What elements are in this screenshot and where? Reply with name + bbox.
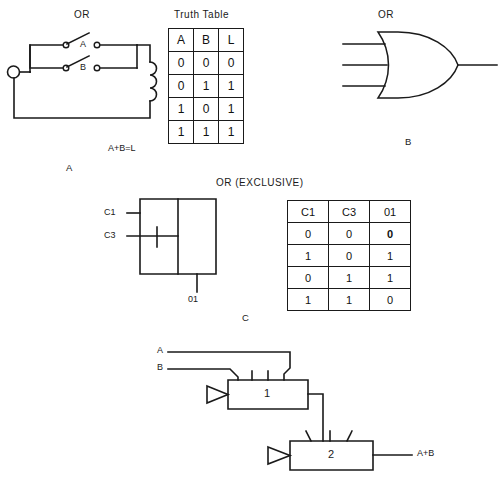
header-cell: C3 xyxy=(329,201,370,223)
panel-a-id: A xyxy=(66,163,72,173)
table-header-row: A B L xyxy=(169,29,244,52)
table-cell: 1 xyxy=(219,75,244,98)
xor-output-label: 01 xyxy=(188,295,198,304)
table-cell: 1 xyxy=(194,75,219,98)
gate-1-output-wire xyxy=(308,394,323,441)
header-cell: A xyxy=(169,29,194,52)
panel-d-input-a-label: A xyxy=(157,346,163,355)
table-header-row: C1 C3 01 xyxy=(288,201,411,223)
truth-table-or: A B L 0 0 0 0 1 1 1 0 1 1 1 1 xyxy=(168,28,244,144)
table-cell: 0 xyxy=(219,52,244,75)
gate-1-enable-triangle xyxy=(207,386,228,403)
table-cell: 1 xyxy=(370,267,411,289)
truth-table-xor: C1 C3 01 0 0 0 1 0 1 0 1 1 1 1 0 xyxy=(287,200,411,311)
table-cell: 0 xyxy=(370,223,411,245)
xor-input-c1-label: C1 xyxy=(104,208,116,217)
header-cell: L xyxy=(219,29,244,52)
input-a-wire xyxy=(168,352,290,380)
table-cell: 1 xyxy=(219,121,244,144)
table-cell: 0 xyxy=(288,223,329,245)
table-cell: 0 xyxy=(194,98,219,121)
switch-b-label: B xyxy=(80,63,86,72)
header-cell: B xyxy=(194,29,219,52)
switch-a-label: A xyxy=(80,40,86,49)
table-cell: 0 xyxy=(169,75,194,98)
xor-input-c3-label: C3 xyxy=(104,231,116,240)
table-cell: 1 xyxy=(219,98,244,121)
table-cell: 1 xyxy=(169,121,194,144)
panel-b-heading: OR xyxy=(378,10,394,20)
input-b-wire xyxy=(168,369,238,380)
panel-a-heading: OR xyxy=(74,10,90,20)
exclusive-or-block-drawing xyxy=(0,0,503,488)
table-cell: 1 xyxy=(288,289,329,311)
table-cell: 0 xyxy=(329,223,370,245)
panel-c-id: C xyxy=(242,313,249,323)
panel-d-output-label: A+B xyxy=(417,449,434,458)
panel-d-input-b-label: B xyxy=(157,363,163,372)
header-cell: C1 xyxy=(288,201,329,223)
table-row: 1 1 0 xyxy=(288,289,411,311)
table-row: 1 1 1 xyxy=(169,121,244,144)
panel-b-id: B xyxy=(405,137,411,147)
panel-a-circuit-drawing xyxy=(0,0,503,488)
table-row: 0 1 1 xyxy=(169,75,244,98)
table-cell: 0 xyxy=(288,267,329,289)
table-row: 1 0 1 xyxy=(288,245,411,267)
table-cell: 0 xyxy=(169,52,194,75)
table-row: 0 0 0 xyxy=(288,223,411,245)
table-row: 0 0 0 xyxy=(169,52,244,75)
table-cell: 1 xyxy=(329,289,370,311)
table-cell: 1 xyxy=(329,267,370,289)
table-cell: 0 xyxy=(194,52,219,75)
truth-table-caption: Truth Table xyxy=(174,10,229,20)
table-cell: 1 xyxy=(288,245,329,267)
cascaded-gates-drawing xyxy=(0,0,503,488)
header-cell: 01 xyxy=(370,201,411,223)
table-cell: 0 xyxy=(370,289,411,311)
panel-c-heading: OR (EXCLUSIVE) xyxy=(216,178,304,188)
table-cell: 1 xyxy=(194,121,219,144)
table-row: 0 1 1 xyxy=(288,267,411,289)
table-cell: 1 xyxy=(169,98,194,121)
or-gate-symbol xyxy=(0,0,503,488)
panel-a-equation: A+B=L xyxy=(108,144,136,153)
gate-2-enable-triangle xyxy=(268,447,290,464)
figure-sheet: OR xyxy=(0,0,503,488)
gate-2-label: 2 xyxy=(328,449,334,460)
table-row: 1 0 1 xyxy=(169,98,244,121)
table-cell: 1 xyxy=(370,245,411,267)
gate-1-label: 1 xyxy=(264,388,270,399)
table-cell: 0 xyxy=(329,245,370,267)
